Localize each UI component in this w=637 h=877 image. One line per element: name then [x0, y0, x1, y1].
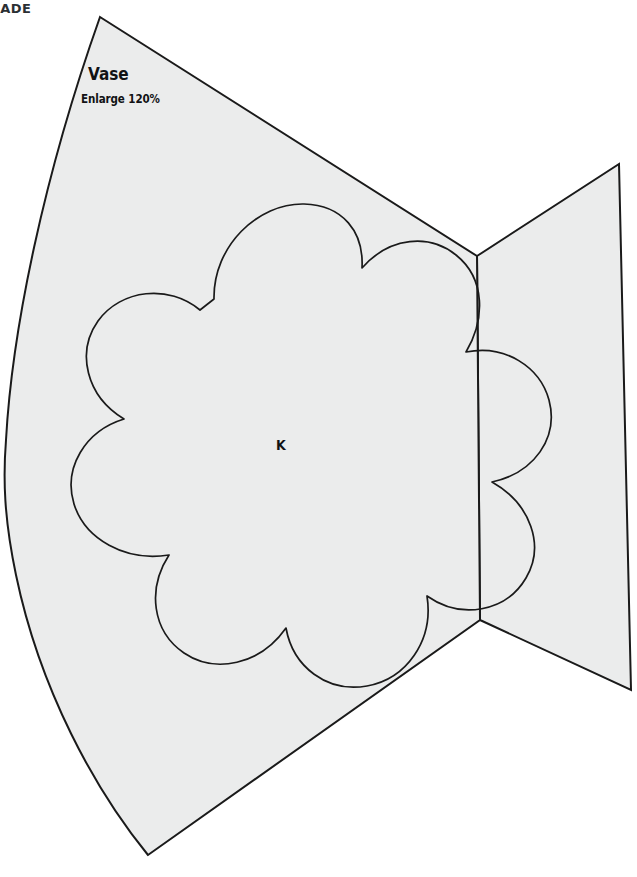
pattern-enlarge-note: Enlarge 120% [81, 92, 160, 106]
vase-fan-shape [5, 17, 480, 855]
page-header-partial-text: EADE [0, 1, 31, 16]
pattern-page: EADE Vase Enlarge 120% K [0, 0, 637, 877]
pattern-artwork [0, 0, 637, 877]
vase-tail-shape [477, 164, 631, 690]
pattern-piece-title: Vase [88, 64, 129, 84]
pattern-piece-letter-k: K [276, 437, 286, 453]
